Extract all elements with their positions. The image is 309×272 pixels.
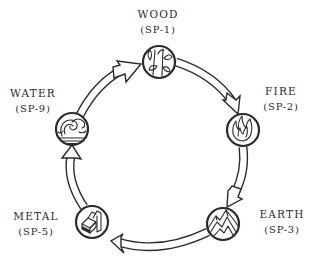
- element-name: EARTH: [259, 207, 304, 221]
- element-name: WOOD: [137, 7, 178, 21]
- node-fire: [227, 114, 259, 146]
- element-name: FIRE: [263, 84, 298, 98]
- arrow-wood-to-fire: [176, 62, 240, 114]
- element-code: (SP-2): [263, 100, 298, 114]
- label-fire: FIRE (SP-2): [263, 84, 298, 114]
- element-name: WATER: [10, 86, 56, 100]
- label-wood: WOOD (SP-1): [137, 7, 178, 37]
- element-code: (SP-5): [13, 225, 58, 239]
- label-metal: METAL (SP-5): [13, 209, 58, 239]
- arrow-fire-to-earth: [227, 147, 244, 207]
- arrow-metal-to-water: [62, 145, 84, 207]
- node-earth: [207, 208, 239, 240]
- label-water: WATER (SP-9): [10, 86, 56, 116]
- element-code: (SP-1): [137, 23, 178, 37]
- node-water: [56, 113, 88, 145]
- node-metal: [76, 206, 108, 238]
- arrow-water-to-wood: [80, 61, 141, 115]
- arrow-earth-to-metal: [111, 232, 208, 253]
- element-name: METAL: [13, 209, 58, 223]
- five-elements-cycle-diagram: .band-outer { fill: none; stroke: #2b2b2…: [0, 0, 309, 272]
- element-code: (SP-9): [10, 102, 56, 116]
- element-code: (SP-3): [259, 223, 304, 237]
- node-wood: [143, 46, 175, 78]
- label-earth: EARTH (SP-3): [259, 207, 304, 237]
